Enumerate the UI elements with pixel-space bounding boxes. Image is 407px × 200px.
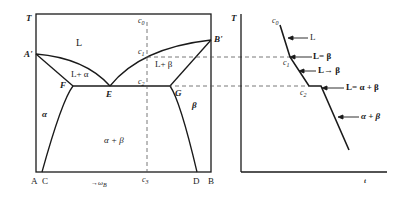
phase-diagram-figure: T A' B' E F G c0 c1 c2 L L+ α L+ β α β α…	[0, 0, 407, 200]
curve-c1-label: c1	[283, 59, 290, 67]
annotation-arrows	[288, 36, 359, 119]
solidus-a-line	[36, 54, 73, 86]
diagram-canvas	[0, 0, 407, 200]
cooling-curve	[280, 25, 349, 150]
curve-c0-label: c0	[272, 17, 279, 25]
left-y-axis-label: T	[26, 14, 32, 23]
point-a-prime-label: A'	[24, 50, 33, 59]
region-l-alpha-label: L+ α	[71, 70, 89, 79]
bottom-label-d: D	[193, 177, 200, 186]
left-frame	[36, 14, 211, 172]
point-f-label: F	[60, 81, 66, 90]
dashed-guides	[147, 22, 309, 172]
region-beta-label: β	[192, 101, 197, 110]
annotation-l-equals-alpha-beta: L= α + β	[346, 83, 379, 92]
region-alpha-label: α	[42, 110, 47, 119]
left-panel	[36, 14, 211, 172]
c0-marker-label: c0	[138, 17, 145, 25]
curve-c2-label: c2	[300, 89, 307, 97]
point-e-label: E	[106, 90, 112, 99]
solvus-beta-curve	[170, 86, 197, 172]
annotation-liquid: L	[310, 33, 316, 42]
bottom-label-c3: c3	[142, 176, 149, 184]
bottom-label-b: B	[208, 177, 214, 186]
x-axis-label-omega-b: →ωB	[91, 180, 107, 187]
region-alpha-beta-label: α + β	[104, 136, 124, 145]
point-b-prime-label: B'	[214, 35, 223, 44]
bottom-label-c: C	[42, 177, 48, 186]
right-y-axis-label: T	[231, 14, 237, 23]
region-l-beta-label: L+ β	[155, 60, 172, 69]
region-liquid-label: L	[76, 38, 82, 48]
annotation-l-equals-beta: L= β	[313, 52, 331, 61]
c2-marker-label: c2	[138, 78, 145, 86]
annotation-l-to-beta: L→ β	[318, 66, 340, 75]
bottom-label-a: A	[31, 177, 38, 186]
solvus-alpha-curve	[42, 86, 73, 172]
annotation-alpha-beta: α + β	[361, 112, 380, 121]
c1-marker-label: c1	[138, 48, 145, 56]
right-x-axis-label: t	[364, 178, 366, 185]
point-g-label: G	[175, 89, 182, 98]
